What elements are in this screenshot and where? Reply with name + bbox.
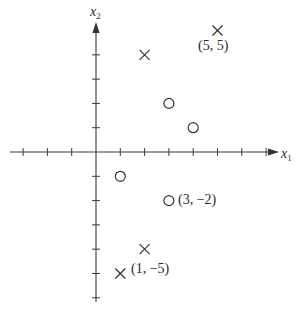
circle-marker-icon bbox=[164, 196, 174, 206]
x-axis: x1 bbox=[10, 146, 292, 163]
y-axis-label: x2 bbox=[89, 4, 101, 21]
label-point-1-minus5: (1, −5) bbox=[131, 261, 170, 277]
label-point-3-minus2: (3, −2) bbox=[178, 192, 217, 208]
cross-marker-icon bbox=[140, 244, 150, 254]
cross-marker-icon bbox=[115, 269, 125, 279]
y-axis: x2 bbox=[89, 4, 101, 302]
circle-marker-icon bbox=[115, 171, 125, 181]
x-axis-arrow-icon bbox=[268, 149, 279, 156]
circle-marker-icon bbox=[188, 123, 198, 133]
y-axis-arrow-icon bbox=[93, 22, 100, 33]
cross-marker-icon bbox=[213, 26, 223, 36]
cross-marker-icon bbox=[140, 50, 150, 60]
label-point-5-5: (5, 5) bbox=[198, 38, 229, 54]
scatter-diagram: x1 x2 (5, 5) (3, −2) (1, −5) bbox=[0, 0, 298, 315]
x-axis-label: x1 bbox=[280, 146, 292, 163]
circle-marker-icon bbox=[164, 98, 174, 108]
